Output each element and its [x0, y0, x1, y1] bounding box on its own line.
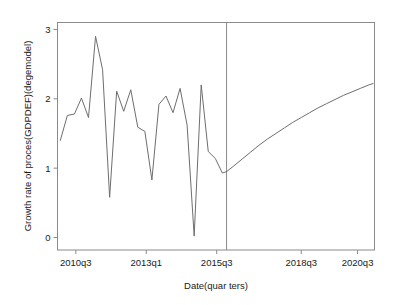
x-tick-label: 2018q3 [285, 257, 317, 268]
x-tick-label: 2010q3 [60, 257, 92, 268]
y-tick-label: 1 [45, 163, 50, 174]
plot-frame [58, 23, 375, 251]
y-tick-label: 0 [45, 232, 50, 243]
chart-screenshot: 0123 2010q32013q12015q32018q32020q3 Date… [0, 0, 398, 305]
y-tick-label: 3 [45, 24, 50, 35]
series-line-historical [60, 36, 226, 236]
y-axis-title: Growth rate of proces(GDPDEF)(degemodel) [22, 41, 33, 232]
chart-figure: 0123 2010q32013q12015q32018q32020q3 Date… [0, 0, 398, 305]
x-tick-label: 2015q3 [201, 257, 233, 268]
x-tick-label: 2013q1 [130, 257, 162, 268]
x-axis: 2010q32013q12015q32018q32020q3 [60, 250, 373, 268]
x-tick-label: 2020q3 [342, 257, 374, 268]
series-line-forecast [227, 84, 374, 172]
y-tick-label: 2 [45, 93, 50, 104]
y-axis: 0123 [45, 24, 57, 243]
x-axis-title: Date(quar ters) [184, 280, 248, 291]
plot-canvas: 0123 2010q32013q12015q32018q32020q3 Date… [0, 0, 398, 305]
data-series [60, 36, 373, 236]
